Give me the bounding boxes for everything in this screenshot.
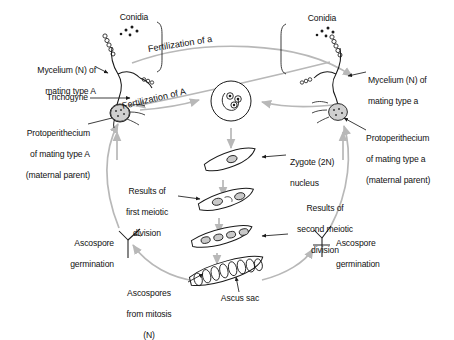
conidial-branch-right (300, 78, 312, 85)
label-protoperithecium-left: Protoperithecium of mating type A (mater… (2, 118, 90, 180)
label-zygote: Zygote (2N) nucleus (290, 147, 376, 189)
label-ascospores-from-mitosis: Ascospores from mitosis (N) (110, 278, 188, 340)
label-ascus-sac: Ascus sac (210, 293, 270, 303)
label-ascospores-mitosis-line2: from mitosis (126, 309, 171, 319)
conidia-dots-left (120, 26, 139, 37)
label-mycelium-right-line2: mating type a (368, 96, 418, 106)
label-ascospores-mitosis-line1: Ascospores (127, 288, 171, 298)
label-conidia-left: Conidia (104, 12, 164, 22)
label-conidia-right: Conidia (292, 13, 352, 23)
label-mycelium-left: Mycelium (N) of mating type A (4, 55, 96, 97)
label-zygote-line1: Zygote (2N) (290, 157, 334, 167)
label-ascospore-germination-right: Ascospore germination (336, 228, 416, 270)
label-protoperithecium-left-line2: of mating type A (30, 149, 90, 159)
protoperithecium-right-hairs (312, 102, 329, 124)
conidial-chain-left (103, 34, 115, 56)
label-ascospore-germination-right-line2: germination (336, 259, 380, 269)
label-second-meiotic-line1: Results of (306, 203, 343, 213)
label-second-meiotic-line3: division (311, 245, 339, 255)
fertilized-cell-circle (211, 81, 251, 121)
label-protoperithecium-left-line1: Protoperithecium (27, 128, 90, 138)
ascus-sac (188, 252, 266, 289)
conidia-dots-right (316, 27, 335, 38)
first-meiosis-ascus (197, 185, 256, 214)
label-ascospores-mitosis-line3: (N) (143, 330, 155, 340)
label-zygote-line2: nucleus (290, 178, 319, 188)
second-meiosis-ascus (190, 222, 254, 250)
bracket-conidia-right (281, 24, 286, 74)
label-mycelium-right-line1: Mycelium (N) of (368, 75, 427, 85)
label-ascospore-germination-left-line2: germination (70, 259, 114, 269)
label-ascospore-germination-left-line1: Ascospore (74, 238, 114, 248)
label-trichogyne: Trichogyne (10, 92, 88, 102)
label-ascospore-germination-left: Ascospore germination (40, 228, 114, 270)
label-protoperithecium-right-line1: Protoperithecium (366, 133, 429, 143)
label-ascospore-germination-right-line1: Ascospore (336, 238, 376, 248)
label-first-meiotic-line3: division (133, 228, 161, 238)
label-first-meiotic-division: Results of first meiotic division (113, 176, 181, 238)
label-protoperithecium-left-line3: (maternal parent) (26, 170, 90, 180)
label-first-meiotic-line1: Results of (128, 186, 165, 196)
zygote-ascus (203, 145, 258, 174)
label-protoperithecium-right: Protoperithecium of mating type a (mater… (366, 123, 454, 185)
label-mycelium-right: Mycelium (N) of mating type a (368, 65, 454, 107)
label-mycelium-left-line1: Mycelium (N) of (37, 65, 96, 75)
label-first-meiotic-line2: first meiotic (126, 207, 168, 217)
